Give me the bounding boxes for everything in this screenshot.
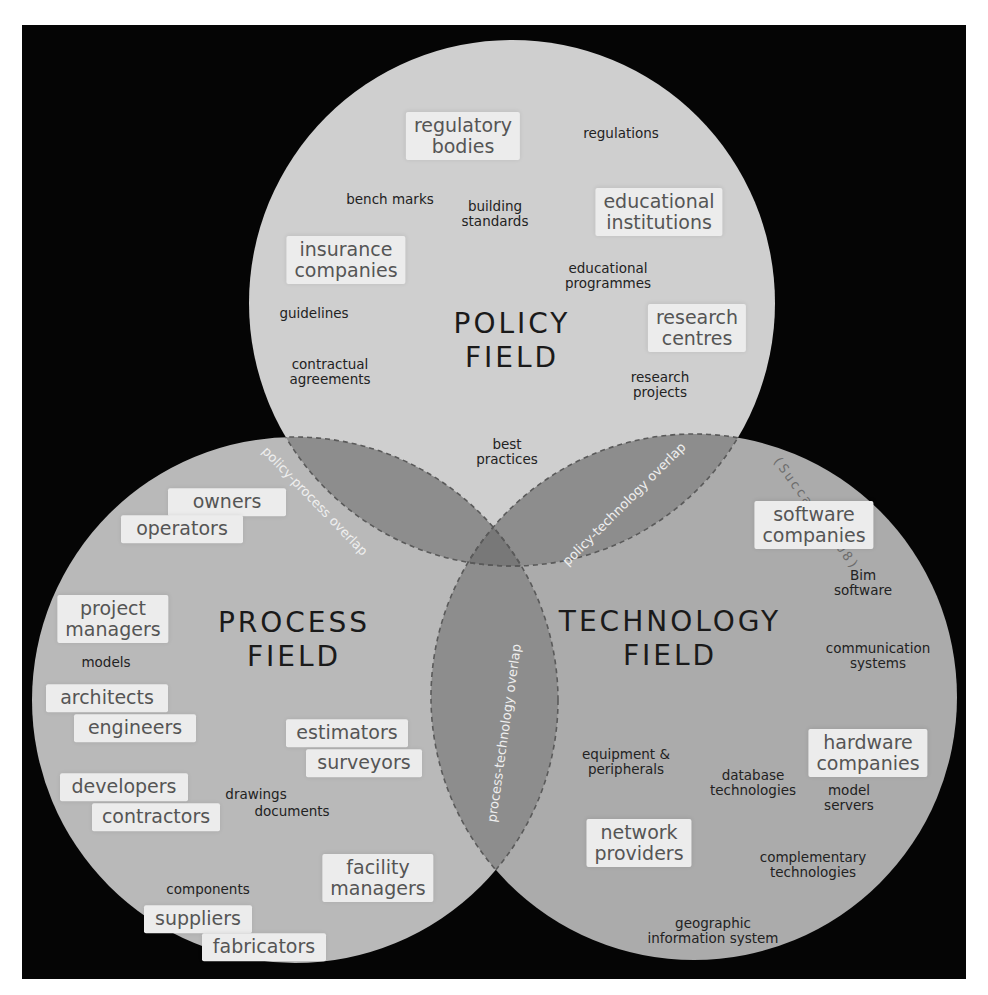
process-box-fabricators: fabricators — [202, 933, 326, 961]
policy-term-regulations: regulations — [583, 126, 659, 141]
policy-box-insurance-companies: insurancecompanies — [286, 236, 405, 284]
process-term-documents: documents — [254, 804, 329, 819]
policy-term-research-projects: researchprojects — [631, 370, 689, 399]
technology-title-line1: TECHNOLOGY — [559, 605, 781, 639]
technology-term-bim-software: Bimsoftware — [834, 568, 892, 597]
technology-box-software-companies: softwarecompanies — [754, 501, 873, 549]
technology-title-line2: FIELD — [559, 639, 781, 673]
process-box-engineers: engineers — [74, 714, 196, 742]
process-term-components: components — [166, 882, 249, 897]
process-term-models: models — [81, 655, 130, 670]
policy-term-bench-marks: bench marks — [346, 192, 434, 207]
technology-box-hardware-companies: hardwarecompanies — [808, 729, 927, 777]
process-box-project-managers: projectmanagers — [57, 595, 168, 643]
process-box-contractors: contractors — [92, 803, 220, 831]
policy-term-educational-programmes: educationalprogrammes — [565, 261, 651, 290]
process-box-surveyors: surveyors — [306, 749, 422, 777]
process-box-suppliers: suppliers — [144, 905, 252, 933]
process-box-facility-managers: facilitymanagers — [322, 854, 433, 902]
process-box-estimators: estimators — [286, 719, 408, 747]
policy-box-educational-institutions: educationalinstitutions — [595, 188, 722, 236]
policy-term-guidelines: guidelines — [279, 306, 348, 321]
policy-term-contractual-agreements: contractualagreements — [289, 357, 370, 386]
technology-field-title: TECHNOLOGY FIELD — [559, 605, 781, 673]
policy-title-line2: FIELD — [454, 341, 571, 375]
policy-field-title: POLICY FIELD — [454, 307, 571, 375]
process-title-line1: PROCESS — [218, 606, 370, 640]
technology-term-communication-systems: communicationsystems — [826, 641, 930, 670]
policy-title-line1: POLICY — [454, 307, 571, 341]
technology-box-network-providers: networkproviders — [586, 819, 691, 867]
process-box-owners: owners — [168, 488, 286, 516]
process-box-developers: developers — [60, 773, 188, 801]
policy-box-research-centres: researchcentres — [648, 304, 746, 352]
process-box-architects: architects — [46, 684, 168, 712]
policy-term-building-standards: buildingstandards — [462, 199, 529, 228]
policy-term-best-practices: bestpractices — [476, 437, 538, 466]
process-box-operators: operators — [121, 515, 243, 543]
process-title-line2: FIELD — [218, 640, 370, 674]
process-term-drawings: drawings — [225, 787, 286, 802]
process-field-title: PROCESS FIELD — [218, 606, 370, 674]
policy-box-regulatory-bodies: regulatorybodies — [406, 112, 520, 160]
technology-term-model-servers: modelservers — [824, 783, 874, 812]
technology-term-complementary-technologies: complementarytechnologies — [760, 850, 867, 879]
diagram-frame: (Succar, 2008) POLICY FIELD regulatorybo… — [22, 25, 966, 979]
technology-term-geographic-information-system: geographicinformation system — [647, 916, 778, 945]
technology-term-equipment-peripherals: equipment &peripherals — [582, 747, 670, 776]
technology-term-database-technologies: databasetechnologies — [710, 768, 796, 797]
